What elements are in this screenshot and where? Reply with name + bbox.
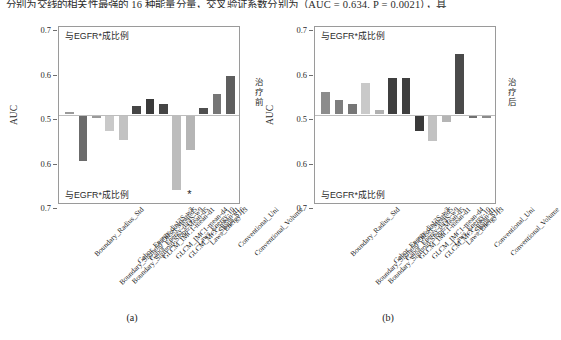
bar-slot (415, 27, 424, 203)
bar-slot (375, 27, 384, 203)
bar-slot (199, 27, 208, 203)
y-tick-label: 0.6 (40, 70, 51, 80)
bar-slot (388, 27, 397, 203)
bar (361, 83, 370, 114)
bar (455, 54, 464, 114)
y-tick-label: 0.7 (296, 203, 307, 213)
bar-slot (321, 27, 330, 203)
bar-slot (119, 27, 128, 203)
bar-slot (92, 27, 101, 203)
side-label-b: 治疗后 (505, 78, 517, 108)
bar-slot (146, 27, 155, 203)
bar-group-a (63, 27, 235, 203)
plot-area-a: 与EGFR*成比例 与EGFR*成比例 * (58, 26, 240, 204)
y-tick-label: 0.7 (40, 25, 51, 35)
bar (388, 78, 397, 114)
significance-star: * (187, 189, 191, 200)
bar-slot (428, 27, 437, 203)
y-axis-a: AUC 0.70.60.50.60.7 (16, 26, 58, 204)
bar-group-b (319, 27, 491, 203)
bar-slot (186, 27, 195, 203)
y-tick-mark (53, 119, 57, 120)
bar-slot (361, 27, 370, 203)
bar (105, 116, 114, 131)
bar-slot (79, 27, 88, 203)
bar-slot (455, 27, 464, 203)
bar-slot (159, 27, 168, 203)
bar (428, 116, 437, 141)
bar (402, 78, 411, 114)
bar (132, 106, 141, 114)
bar (159, 104, 168, 114)
bar (226, 76, 235, 114)
x-tick-label: Boundary_Radius_Std (92, 205, 145, 258)
bar (92, 116, 101, 118)
y-tick-mark (53, 30, 57, 31)
y-tick-mark (53, 75, 57, 76)
bar (415, 116, 424, 131)
figure-panel-a: AUC 0.70.60.50.60.7 与EGFR*成比例 与EGFR*成比例 … (16, 22, 248, 322)
bar-slot (172, 27, 181, 203)
y-tick-mark (53, 208, 57, 209)
bar (65, 112, 74, 114)
bar (199, 108, 208, 114)
y-tick-label: 0.6 (296, 159, 307, 169)
bar (335, 100, 344, 114)
y-tick-label: 0.7 (40, 203, 51, 213)
bar-slot (132, 27, 141, 203)
bar (213, 94, 222, 114)
bar (442, 116, 451, 122)
y-tick-mark (53, 164, 57, 165)
bar (186, 116, 195, 150)
bar-slot (335, 27, 344, 203)
y-axis-title-b: AUC (265, 105, 275, 125)
bar (119, 116, 128, 140)
bar-slot (105, 27, 114, 203)
bar (172, 116, 181, 190)
bar-slot (442, 27, 451, 203)
plot-area-b: 与EGFR*成比例 与EGFR*成比例 (314, 26, 496, 204)
y-axis-title-a: AUC (9, 105, 19, 125)
y-tick-label: 0.5 (40, 114, 51, 124)
subcaption-b: (b) (272, 312, 504, 323)
y-axis-b: AUC 0.70.60.50.60.7 (272, 26, 314, 204)
y-tick-mark (309, 164, 313, 165)
top-cutoff-text: 分别为交线的相关性最强的 16 种能量分量，交叉验证系数分别为（AUC = 0.… (6, 0, 519, 8)
bar (146, 99, 155, 114)
bar-slot (482, 27, 491, 203)
y-tick-label: 0.7 (296, 25, 307, 35)
bar (79, 116, 88, 161)
bar-slot (469, 27, 478, 203)
bar-slot (348, 27, 357, 203)
bar-slot (226, 27, 235, 203)
bar (482, 116, 491, 118)
bar (375, 110, 384, 114)
figure-panel-b: AUC 0.70.60.50.60.7 与EGFR*成比例 与EGFR*成比例 … (272, 22, 504, 322)
subcaption-a: (a) (16, 312, 248, 323)
bar-slot (65, 27, 74, 203)
y-tick-mark (309, 75, 313, 76)
x-tick-label: Boundary_Radius_Std (348, 205, 401, 258)
bar (321, 92, 330, 114)
side-label-a: 治疗前 (252, 78, 264, 108)
bar-slot (402, 27, 411, 203)
y-tick-label: 0.5 (296, 114, 307, 124)
x-axis-labels-b: Boundary_Radius_StdBoundary_Sigmoid-Offs… (314, 205, 496, 305)
y-tick-mark (309, 119, 313, 120)
x-axis-labels-a: Boundary_Radius_StdBoundary_Sigmoid-Offs… (58, 205, 240, 305)
bar-slot (213, 27, 222, 203)
bar (348, 104, 357, 114)
y-tick-mark (309, 208, 313, 209)
bar (469, 116, 478, 118)
y-tick-label: 0.6 (296, 70, 307, 80)
y-tick-mark (309, 30, 313, 31)
y-tick-label: 0.6 (40, 159, 51, 169)
